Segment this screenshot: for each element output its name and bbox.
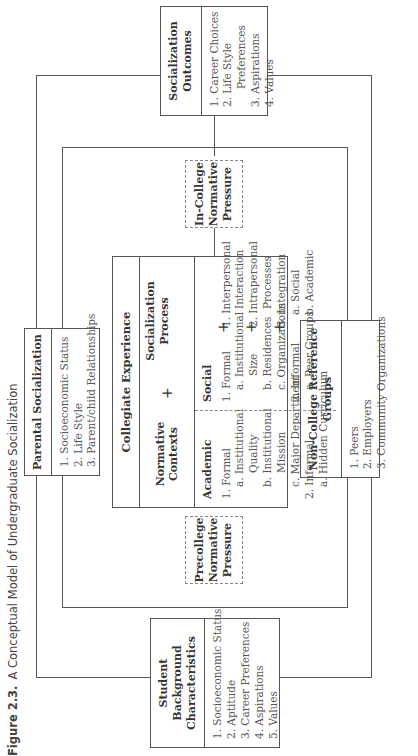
socialization-outcomes-list: 1. Career Choices 2. Life Style Preferen… xyxy=(202,7,283,115)
list-item: 4. Aspirations xyxy=(253,625,267,739)
list-item: 1. Socioeconomic Status xyxy=(211,625,225,739)
list-item: 2. Intrapersonal xyxy=(247,259,261,327)
list-item: Size xyxy=(247,335,261,402)
collegiate-header-row: Normative Contexts + Socialization Proce… xyxy=(140,257,195,507)
socialization-outcomes-box: Socialization Outcomes 1. Career Choices… xyxy=(160,6,268,116)
non-college-groups-list: 1. Peers 2. Employers 3. Community Organ… xyxy=(342,321,396,477)
title-line: Characteristics xyxy=(185,623,199,743)
collegiate-experience-box: Collegiate Experience Normative Contexts… xyxy=(112,256,288,508)
plus-icon: + xyxy=(140,385,194,401)
label-line: Pressure xyxy=(221,517,235,582)
list-item: 1. Formal xyxy=(220,335,234,402)
plus-icon: + xyxy=(215,321,231,333)
list-item: c. Organizations xyxy=(275,335,289,402)
list-item: 3. Career Preferences xyxy=(239,625,253,739)
social-header: Social xyxy=(201,335,216,402)
connector-incollege-outcomes xyxy=(214,116,215,156)
parental-socialization-list: 1. Socioeconomic Status 2. Life Style 3.… xyxy=(52,329,106,475)
label-line: Normative xyxy=(207,517,221,582)
list-item: 2. Aptitude xyxy=(225,625,239,739)
inner-frame-left xyxy=(62,607,348,608)
list-item: 2. Employers xyxy=(361,327,375,469)
figure-caption: Figure 2.3.A Conceptual Model of Undergr… xyxy=(6,383,20,756)
list-item: Quality xyxy=(247,415,261,499)
list-item: a. Hidden Curriculum xyxy=(317,415,331,499)
list-item: Mission xyxy=(275,415,289,499)
academic-header: Academic xyxy=(201,415,216,499)
plus-icon: + xyxy=(243,321,259,333)
collegiate-experience-title: Collegiate Experience xyxy=(113,257,140,507)
precollege-pressure-box: Precollege Normative Pressure xyxy=(185,516,243,584)
social-column: Social 1. Formal a. Institutional Size b… xyxy=(195,331,336,411)
caption-title: A Conceptual Model of Undergraduate Soci… xyxy=(6,383,20,679)
list-item: 2. Life Style xyxy=(72,335,86,467)
title-line: Socialization xyxy=(167,11,181,111)
student-background-box: Student Background Characteristics 1. So… xyxy=(150,618,280,748)
list-item: 1. Career Choices xyxy=(208,13,222,107)
list-item: c. Major Department xyxy=(289,415,303,499)
list-item: 2. Life Style xyxy=(221,13,235,107)
list-item: Interaction xyxy=(233,259,247,327)
collegiate-columns: Academic 1. Formal a. Institutional Qual… xyxy=(195,257,336,507)
title-line: Student Background xyxy=(157,623,185,743)
student-background-list: 1. Socioeconomic Status 2. Aptitude 3. C… xyxy=(205,619,286,747)
list-item: a. Institutional xyxy=(233,335,247,402)
label-line: In-College xyxy=(193,162,207,227)
list-item: a. Social xyxy=(289,259,303,327)
process-column: 1. Interpersonal Interaction 2. Intraper… xyxy=(195,255,336,331)
list-item: a. Institutional xyxy=(233,415,247,499)
socialization-outcomes-title: Socialization Outcomes xyxy=(161,7,202,115)
list-item: 1. Socioeconomic Status xyxy=(58,335,72,467)
label-line: Precollege xyxy=(193,517,207,582)
caption-label: Figure 2.3. xyxy=(6,686,20,756)
incollege-pressure-box: In-College Normative Pressure xyxy=(185,160,243,228)
list-item: 1. Interpersonal xyxy=(220,259,234,327)
label-line: Normative xyxy=(207,162,221,227)
list-item: b. Academic xyxy=(303,259,317,327)
label-line: Socialization xyxy=(144,261,158,381)
list-item: 2. Informal xyxy=(289,335,303,402)
parental-socialization-box: Parental Socialization 1. Socioeconomic … xyxy=(24,328,100,476)
label-line: Process xyxy=(158,261,172,381)
normative-contexts-label: Normative Contexts xyxy=(140,401,194,507)
list-item: 2. Informal xyxy=(303,415,317,499)
list-item: a. Peer Groups xyxy=(303,335,317,402)
figure-stage: Figure 2.3.A Conceptual Model of Undergr… xyxy=(0,0,418,756)
list-item: b. Institutional xyxy=(261,415,275,499)
list-item: 1. Peers xyxy=(348,327,362,469)
plus-icon: + xyxy=(271,321,287,333)
list-item: 3. Integration xyxy=(275,259,289,327)
list-item: 5. Values xyxy=(267,625,281,739)
list-item: b. Residences xyxy=(261,335,275,402)
socialization-process-label: Socialization Process xyxy=(140,257,194,385)
list-item: 3. Aspirations xyxy=(249,13,263,107)
list-item: 3. Parent/child Relationships xyxy=(85,335,99,467)
inner-frame-right xyxy=(62,147,348,148)
title-line: Outcomes xyxy=(181,11,195,111)
student-background-title: Student Background Characteristics xyxy=(151,619,205,747)
list-item: Processes xyxy=(261,259,275,327)
label-line: Pressure xyxy=(221,162,235,227)
list-item: 4. Values xyxy=(263,13,277,107)
list-item: 3. Community Organizations xyxy=(375,327,389,469)
academic-column: Academic 1. Formal a. Institutional Qual… xyxy=(195,411,336,507)
list-item: 1. Formal xyxy=(220,415,234,499)
parental-socialization-title: Parental Socialization xyxy=(25,329,52,475)
list-item: Preferences xyxy=(235,13,249,107)
